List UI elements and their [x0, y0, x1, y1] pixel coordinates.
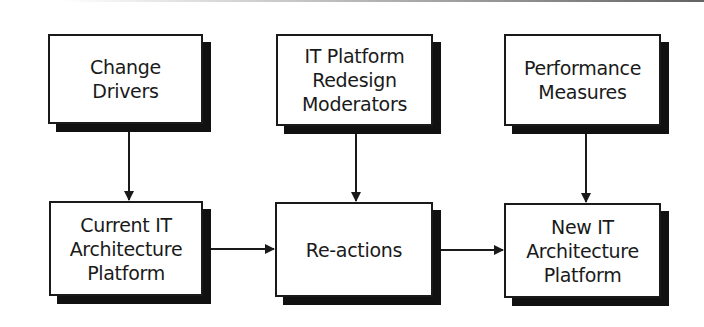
- node-current-it-architecture-platform: Current IT Architecture Platform: [49, 201, 203, 296]
- node-label: IT Platform Redesign Moderators: [302, 44, 407, 116]
- top-rule-divider: [60, 0, 704, 2]
- node-label: New IT Architecture Platform: [526, 215, 639, 287]
- node-label: Change Drivers: [90, 55, 161, 103]
- node-re-actions: Re-actions: [275, 202, 433, 297]
- node-label: Performance Measures: [524, 56, 641, 104]
- node-change-drivers: Change Drivers: [48, 34, 203, 124]
- node-label: Current IT Architecture Platform: [70, 213, 183, 285]
- node-new-it-architecture-platform: New IT Architecture Platform: [504, 203, 661, 298]
- node-it-platform-redesign-moderators: IT Platform Redesign Moderators: [276, 34, 433, 126]
- node-label: Re-actions: [306, 238, 402, 262]
- node-performance-measures: Performance Measures: [504, 34, 661, 126]
